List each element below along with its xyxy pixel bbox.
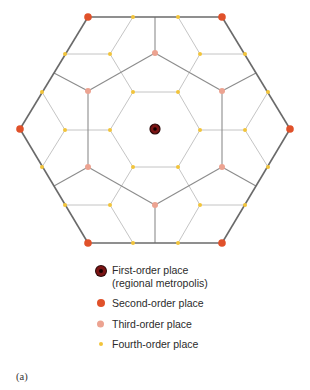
fourth-order-boundary-line xyxy=(178,205,200,243)
central-place-hexagon-diagram xyxy=(0,0,310,260)
third-order-boundary-line xyxy=(88,167,155,205)
second-order-place xyxy=(84,239,92,247)
second-order-place xyxy=(218,13,226,21)
legend-item-second-order: Second-order place xyxy=(95,297,208,310)
fourth-order-place xyxy=(63,203,67,207)
third-order-boundary-line xyxy=(222,73,256,91)
fourth-order-boundary-line xyxy=(178,54,200,92)
second-order-place xyxy=(218,239,226,247)
outer-boundary-line xyxy=(222,129,290,243)
fourth-order-boundary-line xyxy=(178,17,200,54)
legend-label-fourth-order: Fourth-order place xyxy=(112,338,198,350)
second-order-marker-icon xyxy=(97,299,105,307)
legend: First-order place (regional metropolis) … xyxy=(95,264,208,351)
third-order-boundary-line xyxy=(155,167,222,205)
fourth-order-place xyxy=(266,90,270,94)
fourth-order-place xyxy=(198,203,202,207)
legend-label-first-order-sub: (regional metropolis) xyxy=(112,277,208,290)
second-order-place xyxy=(286,125,294,133)
first-order-place-center xyxy=(153,127,157,131)
fourth-order-place xyxy=(131,165,135,169)
third-order-boundary-line xyxy=(222,167,256,186)
third-order-boundary-line xyxy=(54,167,88,186)
fourth-order-place xyxy=(63,52,67,56)
fourth-order-boundary-line xyxy=(178,92,200,130)
fourth-order-place xyxy=(176,165,180,169)
third-order-place xyxy=(219,164,225,170)
third-order-boundary-line xyxy=(88,53,155,91)
third-order-place xyxy=(152,50,158,56)
third-order-marker-icon xyxy=(97,320,104,327)
third-order-place xyxy=(152,202,158,208)
third-order-boundary-line xyxy=(155,53,222,91)
legend-label-third-order: Third-order place xyxy=(112,318,192,330)
fourth-order-boundary-line xyxy=(110,54,133,92)
third-order-place xyxy=(85,88,91,94)
fourth-order-boundary-line xyxy=(42,130,65,167)
fourth-order-place xyxy=(108,203,112,207)
fourth-order-boundary-line xyxy=(245,130,268,167)
third-order-place xyxy=(85,164,91,170)
fourth-order-place xyxy=(176,15,180,19)
fourth-order-boundary-line xyxy=(245,92,268,130)
fourth-order-place xyxy=(243,128,247,132)
legend-label-first-order: First-order place xyxy=(112,264,208,277)
fourth-order-place xyxy=(40,165,44,169)
fourth-order-place xyxy=(176,241,180,245)
fourth-order-place xyxy=(131,90,135,94)
fourth-order-place xyxy=(198,52,202,56)
outer-boundary-line xyxy=(20,129,88,243)
fourth-order-place xyxy=(198,128,202,132)
fourth-order-boundary-line xyxy=(110,92,133,130)
fourth-order-marker-icon xyxy=(99,342,103,346)
second-order-place xyxy=(84,13,92,21)
fourth-order-place xyxy=(131,241,135,245)
fourth-order-place xyxy=(40,90,44,94)
fourth-order-place xyxy=(131,15,135,19)
second-order-place xyxy=(16,125,24,133)
first-order-marker-icon xyxy=(96,266,106,276)
legend-item-fourth-order: Fourth-order place xyxy=(95,338,208,351)
fourth-order-place xyxy=(108,128,112,132)
legend-item-third-order: Third-order place xyxy=(95,318,208,331)
figure-caption: (a) xyxy=(16,371,28,382)
legend-item-first-order: First-order place (regional metropolis) xyxy=(95,264,208,290)
third-order-boundary-line xyxy=(54,73,88,91)
fourth-order-boundary-line xyxy=(110,17,133,54)
fourth-order-place xyxy=(243,203,247,207)
fourth-order-boundary-line xyxy=(110,130,133,167)
fourth-order-place xyxy=(266,165,270,169)
third-order-place xyxy=(219,88,225,94)
fourth-order-place xyxy=(176,90,180,94)
fourth-order-place xyxy=(63,128,67,132)
fourth-order-place xyxy=(108,52,112,56)
fourth-order-place xyxy=(243,52,247,56)
legend-label-second-order: Second-order place xyxy=(112,297,204,309)
fourth-order-boundary-line xyxy=(42,92,65,130)
fourth-order-boundary-line xyxy=(110,205,133,243)
fourth-order-boundary-line xyxy=(178,130,200,167)
